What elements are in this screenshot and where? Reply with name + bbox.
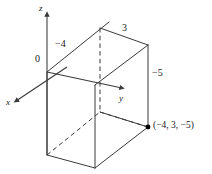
box-hidden-bottom-diagonal (47, 112, 100, 155)
y-axis-label: y (119, 94, 123, 103)
origin-label: 0 (35, 54, 40, 64)
box-bottom-edge-left (47, 155, 95, 168)
plotted-point-marker (146, 125, 151, 130)
x-extent-label: −4 (55, 39, 66, 49)
y-axis-line (47, 72, 122, 88)
box-bottom-edge-front-right (95, 127, 148, 168)
coordinate-axes-and-box-svg (0, 0, 212, 174)
x-axis-label: x (6, 98, 10, 107)
box-top-edge-front-right (95, 45, 148, 85)
y-extent-label: 3 (122, 23, 127, 33)
z-extent-label: −5 (152, 68, 163, 78)
axis-group (16, 14, 122, 155)
coordinate-figure: z y x 0 −4 3 −5 (−4, 3, −5) (0, 0, 212, 174)
z-axis-label: z (39, 4, 43, 13)
point-coordinate-label: (−4, 3, −5) (153, 121, 194, 131)
x-axis-line (16, 67, 67, 101)
